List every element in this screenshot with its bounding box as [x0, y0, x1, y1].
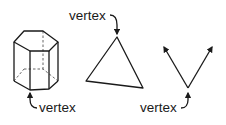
- hidden-edges: [14, 31, 58, 81]
- angle-vertex-label: vertex: [140, 100, 177, 115]
- angle-left-ray: [164, 47, 188, 88]
- triangle: vertex: [69, 8, 143, 88]
- triangle-vertex-label: vertex: [69, 8, 106, 23]
- prism-vertex-arrow: [30, 93, 37, 108]
- prism-vertex-label: vertex: [39, 100, 76, 115]
- triangle-vertex-arrow: [110, 15, 117, 34]
- prism-top-face: [14, 31, 58, 51]
- prism-bottom-edges: [14, 81, 58, 90]
- vertex-diagram: vertex vertex vertex: [0, 0, 226, 125]
- angle: vertex: [140, 47, 212, 115]
- hexagonal-prism: vertex: [14, 31, 76, 115]
- triangle-shape: [86, 37, 143, 88]
- angle-vertex-arrow: [181, 93, 188, 108]
- angle-right-ray: [188, 47, 212, 88]
